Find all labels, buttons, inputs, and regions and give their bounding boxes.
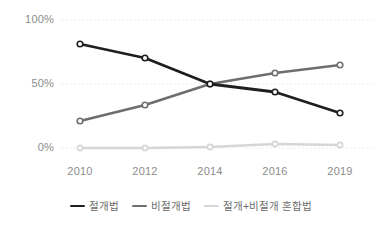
y-tick-label-50: 50% [2, 77, 54, 89]
legend-line-icon [204, 205, 219, 207]
data-point [142, 55, 148, 61]
line-chart: 100% 50% 0% 2010 2012 2014 2016 2019 절개법… [0, 0, 382, 229]
data-point [77, 145, 82, 150]
data-point [272, 70, 278, 76]
legend-label: 절개+비절개 혼합법 [223, 198, 312, 213]
legend-item-non-incision[interactable]: 비절개법 [132, 198, 191, 213]
data-point [337, 110, 343, 116]
legend-item-incision[interactable]: 절개법 [70, 198, 119, 213]
legend-label: 절개법 [89, 198, 119, 213]
data-point [142, 145, 147, 150]
x-tick-label-2016: 2016 [245, 165, 305, 177]
y-tick-label-100: 100% [2, 13, 54, 25]
data-point [77, 41, 83, 47]
series-line-non-incision [77, 62, 343, 124]
legend-line-icon [70, 205, 85, 207]
chart-legend: 절개법 비절개법 절개+비절개 혼합법 [0, 198, 382, 213]
legend-item-mixed[interactable]: 절개+비절개 혼합법 [204, 198, 312, 213]
data-point [142, 102, 148, 108]
x-tick-label-2012: 2012 [115, 165, 175, 177]
data-point [337, 142, 342, 147]
data-point [207, 81, 213, 87]
data-point [272, 141, 277, 146]
legend-label: 비절개법 [151, 198, 191, 213]
series-line-mixed [77, 141, 342, 150]
data-point [207, 144, 212, 149]
legend-line-icon [132, 205, 147, 207]
data-point [272, 89, 278, 95]
data-point [77, 118, 83, 124]
y-tick-label-0: 0% [2, 141, 54, 153]
chart-plot-area [0, 0, 382, 229]
data-point [337, 62, 343, 68]
x-tick-label-2019: 2019 [310, 165, 370, 177]
x-tick-label-2014: 2014 [180, 165, 240, 177]
series-line-incision [77, 41, 343, 116]
x-tick-label-2010: 2010 [50, 165, 110, 177]
